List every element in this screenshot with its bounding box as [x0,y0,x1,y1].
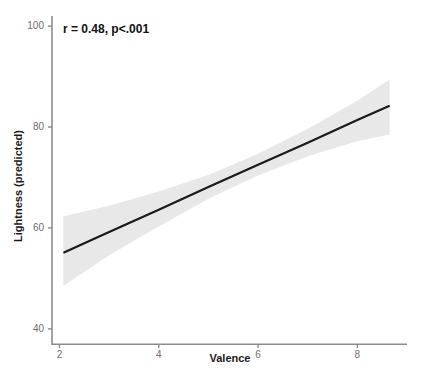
x-axis-title: Valence [52,352,408,364]
confidence-band [63,80,389,286]
y-tick-label: 40 [10,324,44,334]
y-axis-title: Lightness (predicted) [12,106,24,266]
regression-plot-figure: 4060801002468 r = 0.48, p<.001 Lightness… [0,0,422,376]
plot-canvas [0,0,422,376]
correlation-annotation: r = 0.48, p<.001 [63,22,149,36]
y-tick-label: 100 [10,21,44,31]
regression-line [63,106,389,253]
